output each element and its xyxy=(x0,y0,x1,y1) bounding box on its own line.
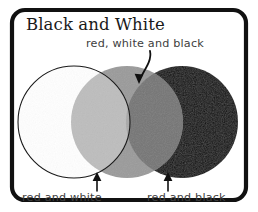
figure-canvas: Black and White red, white and black red… xyxy=(0,0,258,212)
venn-diagram xyxy=(18,66,238,178)
figure-title: Black and White xyxy=(26,15,165,34)
label-red-and-white: red and white xyxy=(22,191,102,204)
black-and-white-venn-figure: Black and White red, white and black red… xyxy=(0,0,258,212)
label-red-white-and-black: red, white and black xyxy=(86,37,204,50)
label-red-and-black: red and black xyxy=(147,191,226,204)
